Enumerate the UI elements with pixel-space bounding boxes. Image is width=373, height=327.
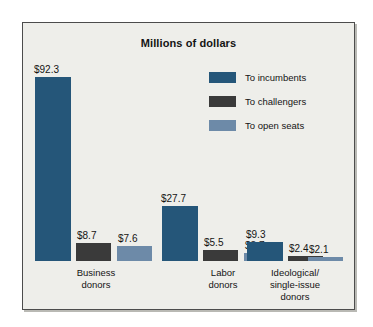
bar-value-ideological-challengers: $2.4: [289, 243, 308, 254]
bar-business-open-seats: [117, 246, 152, 261]
bar-value-business-challengers: $8.7: [77, 230, 96, 241]
bar-labor-challengers: [203, 250, 238, 261]
bar-ideological-open-seats: [308, 257, 343, 261]
bar-value-labor-challengers: $5.5: [204, 237, 223, 248]
bar-labor-incumbents: [162, 206, 198, 261]
bar-value-labor-incumbents: $27.7: [161, 193, 186, 204]
plot-area: $92.3 $8.7 $7.6 Business donors $27.7 $5…: [23, 23, 354, 309]
bar-value-ideological-open-seats: $2.1: [309, 244, 328, 255]
bar-ideological-incumbents: [247, 242, 283, 261]
group-label-business-donors: Business donors: [51, 267, 141, 291]
group-label-ideological-donors: Ideological/ single-issue donors: [245, 267, 345, 303]
bar-business-incumbents: [35, 77, 71, 261]
bar-business-challengers: [76, 243, 111, 261]
bar-value-ideological-incumbents: $9.3: [246, 229, 265, 240]
chart-figure: Millions of dollars To incumbents To cha…: [22, 22, 355, 310]
bar-value-business-open-seats: $7.6: [118, 233, 137, 244]
bar-value-business-incumbents: $92.3: [34, 64, 59, 75]
